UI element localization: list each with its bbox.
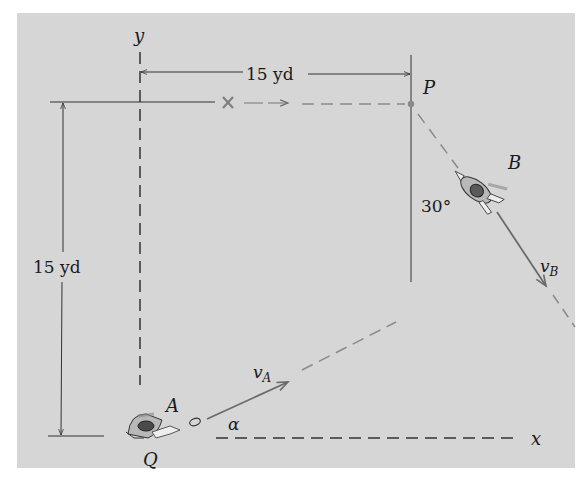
receiver-path-continued [553,295,575,327]
velocity-b-arrow [497,212,546,286]
velocity-a-label: vA [253,362,272,385]
point-p-label: P [422,77,436,98]
vertical-dimension-label: 15 yd [33,257,81,277]
intercept-x-icon [223,97,233,108]
diagram-canvas: 15 yd 15 yd P vB B 30° vA α [0,0,586,495]
velocity-a-arrow [207,382,288,419]
vertical-dimension-bottom [61,282,62,435]
angle-alpha-label: α [228,414,240,434]
point-a-label: A [164,395,179,416]
point-b-label: B [507,152,521,173]
quarterback-a-icon [126,414,180,438]
point-p-dot [408,101,414,107]
x-axis-label: x [531,428,541,449]
point-q-label: Q [143,449,158,470]
angle-30-label: 30° [421,196,451,216]
velocity-b-label: vB [540,256,559,279]
horizontal-dimension-label: 15 yd [246,64,294,84]
pass-path-dashed [302,322,396,370]
y-axis-label: y [133,25,145,46]
receiver-path-dashed [418,114,458,168]
football-icon [189,417,202,427]
